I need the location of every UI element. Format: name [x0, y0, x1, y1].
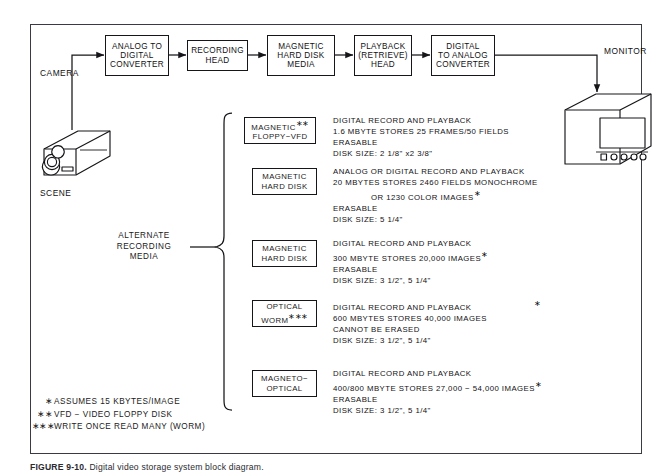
desc-line: DISK SIZE: 2 1/8" x2 3/8" — [333, 148, 509, 159]
media-box-line: OPTICAL — [266, 302, 302, 312]
desc-line: 20 MBYTES STORES 2460 FIELDS MONOCHROME — [333, 177, 538, 188]
desc-line: DISK SIZE: 3 1/2", 5 1/4" — [333, 335, 540, 346]
desc-line: 300 MBYTE STORES 20,000 IMAGES∗ — [333, 249, 488, 264]
flow-box-line: DIGITAL — [446, 42, 479, 51]
figure-caption-text: Digital video storage system block diagr… — [89, 462, 263, 472]
camera-label: CAMERA — [40, 68, 79, 78]
footnote-marker: ∗∗ — [296, 119, 309, 128]
footnotes-block: ∗ ASSUMES 15 KBYTES/IMAGE ∗∗ VFD − VIDEO… — [32, 396, 205, 434]
media-box-line: MAGNETO− — [261, 374, 308, 384]
footnote-marker: ∗ — [481, 250, 488, 259]
media-box-line: OPTICAL — [266, 384, 302, 394]
flow-box-line: HARD DISK — [277, 51, 324, 60]
footnote-marker: ∗ — [474, 189, 481, 198]
figure-page: ANALOG TO DIGITAL CONVERTER RECORDING HE… — [0, 0, 669, 473]
media-box-line: HARD DISK — [261, 182, 307, 192]
footnote-marker: ∗∗∗ — [32, 420, 52, 434]
footnote-row: ∗∗∗ WRITE ONCE READ MANY (WORM) — [32, 421, 205, 434]
alt-label-line: ALTERNATE — [118, 231, 170, 240]
desc-line: 1.6 MBYTE STORES 25 FRAMES/50 FIELDS — [333, 126, 509, 137]
footnote-marker: ∗ — [472, 299, 541, 308]
media-desc-magneto-optical: DIGITAL RECORD AND PLAYBACK 400/800 MBYT… — [333, 368, 541, 416]
desc-line: DISK SIZE: 5 1/4" — [333, 214, 538, 225]
flow-box-line: TO ANALOG — [438, 51, 488, 60]
media-box-line: WORM∗∗∗ — [261, 312, 308, 325]
figure-caption-label: FIGURE 9-10. — [30, 462, 87, 472]
desc-line: 400/800 MBYTE STORES 27,000 − 54,000 IMA… — [333, 379, 541, 394]
desc-line: DISK SIZE: 3 1/2", 5 1/4" — [333, 275, 488, 286]
monitor-label: MONITOR — [604, 46, 647, 56]
footnote-text: ASSUMES 15 KBYTES/IMAGE — [54, 397, 180, 406]
desc-line: DIGITAL RECORD AND PLAYBACK∗ — [333, 298, 540, 313]
media-box-magnetic-hard-disk-20mb[interactable]: MAGNETIC HARD DISK — [252, 168, 317, 195]
desc-line: OR 1230 COLOR IMAGES∗ — [333, 188, 538, 203]
flow-box-line: MAGNETIC — [278, 42, 324, 51]
media-box-line: MAGNETIC∗∗ — [251, 119, 308, 132]
desc-line: DISK SIZE: 3 1/2", 5 1/4" — [333, 405, 541, 416]
footnote-text: WRITE ONCE READ MANY (WORM) — [54, 422, 205, 431]
flow-box-playback-retrieve-head[interactable]: PLAYBACK (RETRIEVE) HEAD — [354, 35, 412, 76]
alt-label-line: RECORDING — [117, 242, 172, 251]
flow-box-line: (RETRIEVE) — [358, 51, 407, 60]
media-desc-optical-worm: DIGITAL RECORD AND PLAYBACK∗ 600 MBYTES … — [333, 298, 540, 346]
footnote-row: ∗ ASSUMES 15 KBYTES/IMAGE — [32, 396, 205, 409]
flow-box-line: ANALOG TO — [112, 42, 162, 51]
alternate-recording-media-label: ALTERNATE RECORDING MEDIA — [100, 231, 188, 263]
flow-box-line: RECORDING — [191, 46, 244, 55]
figure-caption: FIGURE 9-10. Digital video storage syste… — [30, 462, 264, 472]
media-desc-magnetic-hard-disk-20mb: ANALOG OR DIGITAL RECORD AND PLAYBACK 20… — [333, 166, 538, 225]
footnote-marker: ∗ — [535, 380, 542, 389]
media-box-line: MAGNETIC — [262, 172, 306, 182]
media-desc-magnetic-hard-disk-300mb: DIGITAL RECORD AND PLAYBACK 300 MBYTE ST… — [333, 238, 488, 286]
desc-line: ERASABLE — [333, 203, 538, 214]
desc-line: ANALOG OR DIGITAL RECORD AND PLAYBACK — [333, 166, 538, 177]
media-box-magneto-optical[interactable]: MAGNETO− OPTICAL — [252, 370, 317, 397]
flow-box-line: HEAD — [371, 60, 395, 69]
scene-label: SCENE — [40, 188, 71, 198]
desc-line: DIGITAL RECORD AND PLAYBACK — [333, 115, 509, 126]
flow-box-line: MEDIA — [287, 60, 314, 69]
desc-line: ERASABLE — [333, 137, 509, 148]
flow-box-digital-to-analog-converter[interactable]: DIGITAL TO ANALOG CONVERTER — [431, 35, 495, 76]
desc-line: DIGITAL RECORD AND PLAYBACK — [333, 238, 488, 249]
media-box-optical-worm[interactable]: OPTICAL WORM∗∗∗ — [252, 300, 317, 327]
footnote-marker: ∗∗∗ — [288, 312, 308, 321]
flow-box-line: DIGITAL — [120, 51, 153, 60]
media-box-magnetic-hard-disk-300mb[interactable]: MAGNETIC HARD DISK — [252, 240, 317, 267]
flow-box-recording-head[interactable]: RECORDING HEAD — [187, 40, 248, 71]
flow-box-line: HEAD — [206, 56, 230, 65]
footnote-text: VFD − VIDEO FLOPPY DISK — [54, 410, 173, 419]
alt-label-line: MEDIA — [130, 252, 158, 261]
flow-box-magnetic-hard-disk-media[interactable]: MAGNETIC HARD DISK MEDIA — [267, 35, 335, 76]
media-box-line: FLOPPY−VFD — [253, 132, 308, 142]
flow-box-line: CONVERTER — [110, 60, 164, 69]
media-desc-magnetic-floppy-vfd: DIGITAL RECORD AND PLAYBACK 1.6 MBYTE ST… — [333, 115, 509, 159]
desc-line: ERASABLE — [333, 394, 541, 405]
flow-box-line: CONVERTER — [436, 60, 490, 69]
desc-line: DIGITAL RECORD AND PLAYBACK — [333, 368, 541, 379]
media-box-line: MAGNETIC — [262, 244, 306, 254]
desc-line: ERASABLE — [333, 264, 488, 275]
media-box-line: HARD DISK — [261, 254, 307, 264]
media-box-magnetic-floppy-vfd[interactable]: MAGNETIC∗∗ FLOPPY−VFD — [244, 117, 316, 144]
desc-line: 600 MBYTES STORES 40,000 IMAGES — [333, 313, 540, 324]
flow-box-line: PLAYBACK — [360, 42, 405, 51]
flow-box-analog-to-digital-converter[interactable]: ANALOG TO DIGITAL CONVERTER — [105, 35, 169, 76]
desc-line: CANNOT BE ERASED — [333, 324, 540, 335]
footnote-row: ∗∗ VFD − VIDEO FLOPPY DISK — [32, 409, 205, 422]
